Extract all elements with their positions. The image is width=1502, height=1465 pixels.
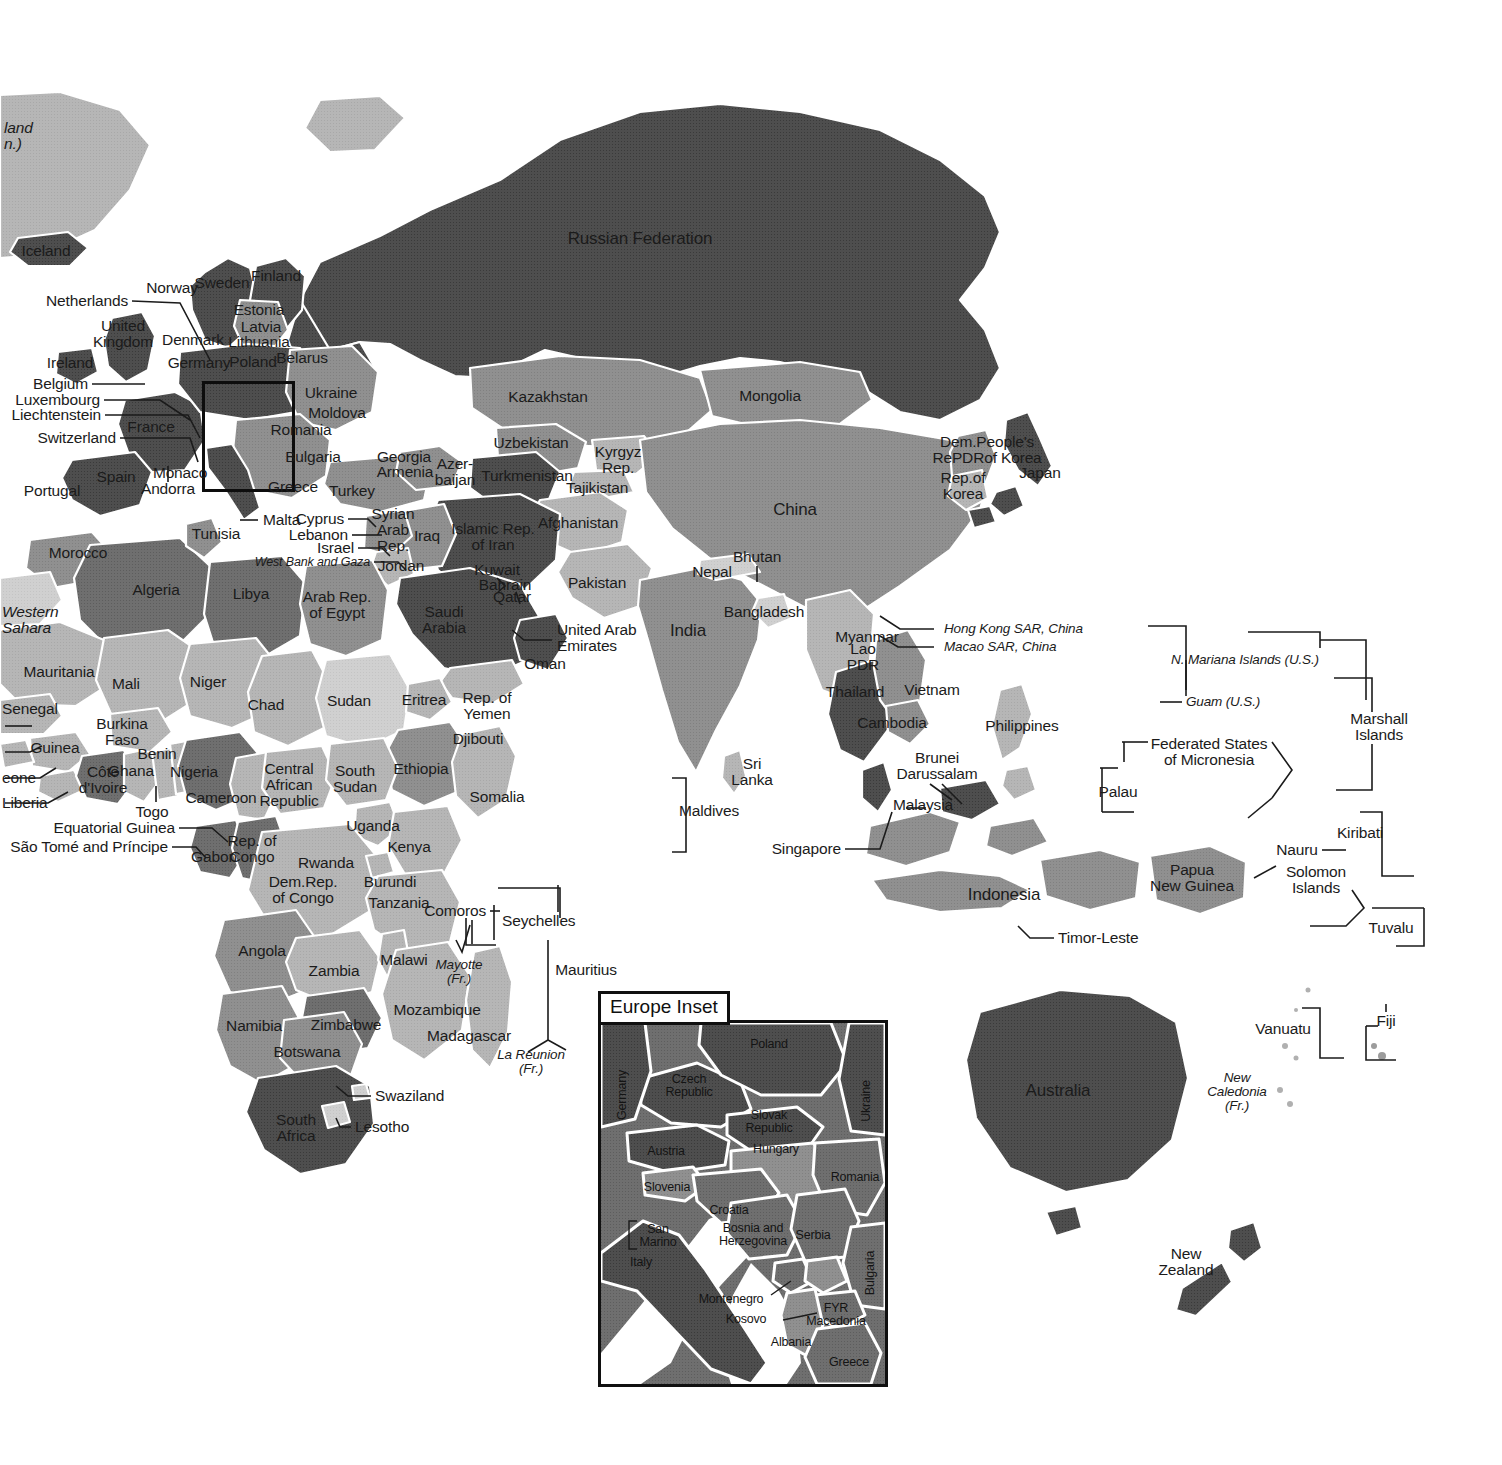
europe-inset-panel: .ic{stroke:#ffffff;stroke-width:3;stroke… (598, 1020, 888, 1387)
europe-inset-landmasses: .ic{stroke:#ffffff;stroke-width:3;stroke… (601, 1023, 885, 1384)
europe-inset-reference-box (202, 381, 295, 492)
world-map-canvas: .cty{stroke:#ffffff;stroke-width:2.2;str… (0, 0, 1502, 1465)
europe-inset-title: Europe Inset (598, 991, 730, 1025)
